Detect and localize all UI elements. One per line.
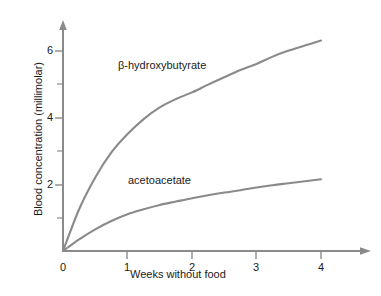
y-axis-arrowhead: [59, 20, 67, 30]
series-curve-acetoacetate: [63, 179, 321, 251]
series-curve-beta-hydroxybutyrate: [63, 41, 321, 251]
chart-plot-area: [0, 0, 381, 296]
x-tick-label-0: 0: [53, 262, 73, 273]
x-axis-arrowhead: [360, 247, 371, 255]
x-tick-label-3: 3: [246, 262, 266, 273]
y-axis-title: Blood concentration (millimolar): [32, 39, 44, 239]
x-tick-label-4: 4: [311, 262, 331, 273]
x-axis-title: Weeks without food: [130, 268, 226, 280]
series-label-acetoacetate: acetoacetate: [128, 175, 191, 186]
chart-figure: 2 4 6 0 1 2 3 4 Weeks without food Blood…: [0, 0, 381, 296]
series-label-beta-hydroxybutyrate: β-hydroxybutyrate: [118, 60, 206, 71]
